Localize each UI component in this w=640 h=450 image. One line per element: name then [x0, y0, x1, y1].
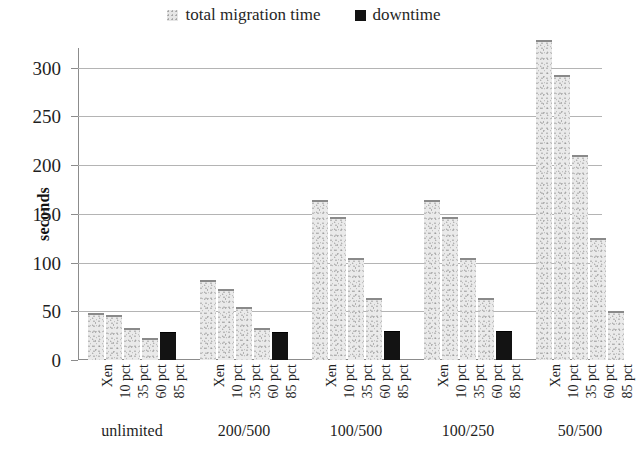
y-axis-tick-label: 250	[33, 107, 62, 126]
legend-entry: downtime	[355, 6, 441, 24]
x-axis-group-label: 200/500	[182, 422, 306, 439]
bar-total-migration-time	[142, 338, 158, 360]
x-axis-tick: Xen	[536, 364, 552, 416]
y-axis-tick: 300	[71, 68, 78, 69]
gridline	[78, 165, 602, 166]
x-axis-tick: 60 pct	[590, 364, 606, 416]
x-axis-tick: 35 pct	[460, 364, 476, 416]
x-axis-tick-label: 85 pct	[173, 364, 187, 399]
bar-downtime	[272, 332, 288, 360]
x-axis-tick: 85 pct	[496, 364, 512, 416]
y-axis-tick-label: 100	[33, 253, 62, 272]
x-axis-group-label: 50/500	[518, 422, 640, 439]
y-axis-tick: 200	[71, 165, 78, 166]
bar-total-migration-time	[478, 298, 494, 360]
y-axis-tick: 250	[71, 116, 78, 117]
x-axis-tick-label: 85 pct	[285, 364, 299, 399]
bar-total-migration-time	[312, 200, 328, 360]
x-axis-tick: 60 pct	[366, 364, 382, 416]
x-axis-tick: 60 pct	[254, 364, 270, 416]
bar-total-migration-time	[572, 155, 588, 360]
x-axis-tick: 85 pct	[608, 364, 624, 416]
x-axis-tick: 85 pct	[160, 364, 176, 416]
bar-total-migration-time	[106, 315, 122, 360]
gridline	[78, 214, 602, 215]
x-axis-tick: 35 pct	[236, 364, 252, 416]
x-axis-tick-label: 85 pct	[509, 364, 523, 399]
y-axis-tick-label: 300	[33, 58, 62, 77]
x-axis-tick: Xen	[312, 364, 328, 416]
y-axis-tick-label: 150	[33, 204, 62, 223]
x-axis-tick: 10 pct	[442, 364, 458, 416]
x-axis-tick: 60 pct	[478, 364, 494, 416]
bar-downtime	[160, 332, 176, 360]
y-axis-line	[78, 48, 79, 360]
y-axis-tick-label: 200	[33, 156, 62, 175]
bar-downtime	[496, 331, 512, 360]
legend-label: downtime	[373, 6, 441, 24]
bar-total-migration-time	[236, 307, 252, 360]
legend-label: total migration time	[185, 6, 320, 24]
bar-total-migration-time	[424, 200, 440, 360]
light-gray-square-icon	[167, 10, 178, 21]
x-axis-tick: 85 pct	[272, 364, 288, 416]
gridline	[78, 68, 602, 69]
y-axis-tick: 0	[71, 360, 78, 361]
bar-total-migration-time	[536, 40, 552, 360]
x-axis-tick: 10 pct	[554, 364, 570, 416]
bar-downtime	[384, 331, 400, 360]
bar-total-migration-time	[200, 280, 216, 360]
x-axis-tick: 35 pct	[124, 364, 140, 416]
bar-total-migration-time	[554, 75, 570, 360]
bar-total-migration-time	[442, 217, 458, 360]
bar-total-migration-time	[330, 217, 346, 360]
plot-area: 050100150200250300	[78, 48, 602, 360]
y-axis-tick-label: 50	[42, 302, 61, 321]
x-axis-tick: 35 pct	[572, 364, 588, 416]
x-axis-tick: Xen	[424, 364, 440, 416]
x-axis-tick: 10 pct	[330, 364, 346, 416]
bar-total-migration-time	[254, 328, 270, 360]
bar-total-migration-time	[88, 313, 104, 360]
x-axis-group-label: 100/500	[294, 422, 418, 439]
bar-total-migration-time	[124, 328, 140, 360]
x-axis-tick: 10 pct	[218, 364, 234, 416]
bar-total-migration-time	[218, 289, 234, 360]
x-axis-tick-label: 85 pct	[397, 364, 411, 399]
gridline	[78, 116, 602, 117]
x-axis-tick: 85 pct	[384, 364, 400, 416]
x-axis-tick: Xen	[200, 364, 216, 416]
x-axis-group-label: unlimited	[70, 422, 194, 439]
x-axis-tick: 60 pct	[142, 364, 158, 416]
chart-legend: total migration timedowntime	[0, 2, 608, 28]
bar-total-migration-time	[366, 298, 382, 360]
x-axis-tick: Xen	[88, 364, 104, 416]
x-axis-tick: 35 pct	[348, 364, 364, 416]
bar-total-migration-time	[348, 258, 364, 360]
x-axis-tick: 10 pct	[106, 364, 122, 416]
x-axis-tick-label: 85 pct	[621, 364, 635, 399]
x-axis-group-label: 100/250	[406, 422, 530, 439]
black-square-icon	[355, 10, 366, 21]
bar-total-migration-time	[608, 311, 624, 360]
bar-chart: seconds 050100150200250300 Xen10 pct35 p…	[0, 30, 608, 450]
y-axis-tick: 50	[71, 311, 78, 312]
bar-total-migration-time	[460, 258, 476, 360]
y-axis-tick: 150	[71, 214, 78, 215]
y-axis-tick: 100	[71, 263, 78, 264]
y-axis-tick-label: 0	[52, 351, 62, 370]
legend-entry: total migration time	[167, 6, 320, 24]
bar-total-migration-time	[590, 238, 606, 360]
